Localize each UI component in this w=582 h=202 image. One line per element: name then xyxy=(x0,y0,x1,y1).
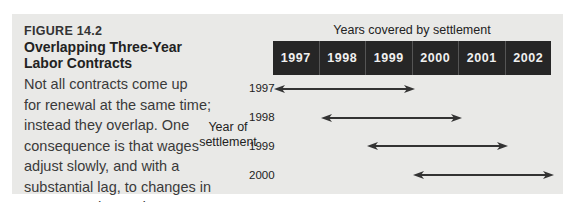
figure-panel: FIGURE 14.2 Overlapping Three-Year Labor… xyxy=(12,14,563,194)
caption-line: aggregate demand. xyxy=(24,197,254,202)
year-cell: 1997 xyxy=(273,41,320,75)
settlement-year-label: 2000 xyxy=(249,169,275,181)
x-axis-label: Years covered by settlement xyxy=(273,23,551,37)
settlement-year-label: 1997 xyxy=(249,82,275,94)
year-header-band: 1997 1998 1999 2000 2001 2002 xyxy=(273,41,551,75)
caption-line: for renewal at the same time; xyxy=(24,95,254,116)
figure-title: Overlapping Three-Year Labor Contracts xyxy=(24,39,244,71)
caption-line: substantial lag, to changes in xyxy=(24,177,254,198)
year-cell: 1999 xyxy=(366,41,413,75)
double-arrow-icon xyxy=(413,170,554,180)
year-cell: 2001 xyxy=(459,41,506,75)
figure-label: FIGURE 14.2 xyxy=(24,24,102,38)
settlement-year-label: 1998 xyxy=(249,111,275,123)
year-cell: 2002 xyxy=(506,41,552,75)
year-cell: 2000 xyxy=(413,41,460,75)
figure-title-line: Labor Contracts xyxy=(24,55,244,71)
double-arrow-icon xyxy=(367,141,508,151)
caption-line: adjust slowly, and with a xyxy=(24,156,254,177)
figure-title-line: Overlapping Three-Year xyxy=(24,39,244,55)
double-arrow-icon xyxy=(321,113,462,123)
year-cell: 1998 xyxy=(320,41,367,75)
double-arrow-icon xyxy=(274,84,415,94)
caption-line: Not all contracts come up xyxy=(24,74,254,95)
settlement-year-label: 1999 xyxy=(249,140,275,152)
